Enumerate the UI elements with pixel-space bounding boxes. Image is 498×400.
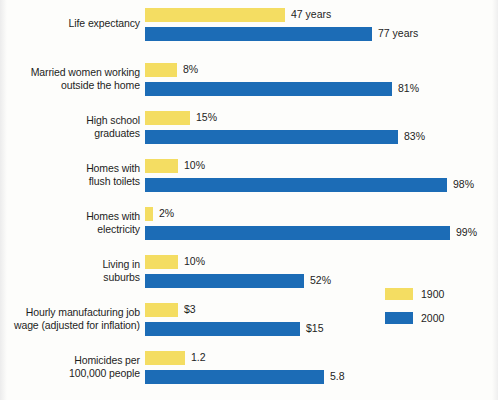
category-label-line1: Homes with [0, 162, 140, 175]
bar-1900 [145, 255, 178, 269]
bar-value-2000: 5.8 [330, 369, 345, 384]
category-label-line2: flush toilets [0, 175, 140, 188]
bar-1900 [145, 111, 190, 125]
category-label-line1: Life expectancy [69, 17, 140, 29]
category-label: Life expectancy [0, 17, 140, 30]
category-label-line2: 100,000 people [0, 367, 140, 380]
bar-value-2000: 77 years [378, 26, 418, 41]
bar-value-1900: 10% [184, 254, 205, 269]
bar-value-1900: 47 years [291, 7, 331, 22]
bar-value-1900: 10% [184, 158, 205, 173]
bar-1900 [145, 303, 178, 317]
category-label-line1: Living in [0, 258, 140, 271]
category-label: Homes with electricity [0, 210, 140, 236]
bar-2000 [145, 274, 304, 288]
category-label-line1: Married women working [0, 66, 140, 79]
bar-2000 [145, 27, 372, 41]
bar-value-2000: 83% [404, 129, 425, 144]
legend-swatch-2000 [385, 312, 413, 324]
bar-2000 [145, 82, 392, 96]
bar-value-1900: $3 [184, 302, 196, 317]
bar-1900 [145, 351, 185, 365]
category-label-line1: Homicides per [0, 354, 140, 367]
bar-chart: Life expectancy 47 years 77 years Marrie… [0, 0, 498, 400]
category-label-line2: suburbs [0, 271, 140, 284]
category-label-line2: wage (adjusted for inflation) [0, 319, 140, 332]
bar-value-1900: 2% [159, 206, 174, 221]
category-label: Homicides per 100,000 people [0, 354, 140, 380]
category-label: Hourly manufacturing job wage (adjusted … [0, 306, 140, 332]
legend-swatch-1900 [385, 288, 413, 300]
bar-2000 [145, 322, 300, 336]
category-label: High school graduates [0, 114, 140, 140]
bar-value-1900: 8% [183, 62, 198, 77]
category-label: Living in suburbs [0, 258, 140, 284]
category-label-line2: graduates [0, 127, 140, 140]
bar-1900 [145, 207, 153, 221]
bar-value-1900: 15% [196, 110, 217, 125]
category-label-line1: Hourly manufacturing job [0, 306, 140, 319]
category-label: Married women working outside the home [0, 66, 140, 92]
category-label-line1: High school [0, 114, 140, 127]
category-label-line2: outside the home [0, 79, 140, 92]
bar-1900 [145, 159, 178, 173]
bar-value-2000: 98% [453, 177, 474, 192]
category-label-line1: Homes with [0, 210, 140, 223]
bar-value-2000: 81% [398, 81, 419, 96]
category-label: Homes with flush toilets [0, 162, 140, 188]
bar-2000 [145, 130, 398, 144]
bar-2000 [145, 370, 324, 384]
category-label-line2: electricity [0, 223, 140, 236]
bar-value-2000: 52% [310, 273, 331, 288]
bar-2000 [145, 226, 450, 240]
bar-2000 [145, 178, 447, 192]
bar-1900 [145, 63, 177, 77]
bar-value-2000: 99% [456, 225, 477, 240]
bar-value-1900: 1.2 [191, 350, 206, 365]
legend-label-2000: 2000 [421, 310, 444, 326]
bar-1900 [145, 8, 285, 22]
legend-label-1900: 1900 [421, 286, 444, 302]
bar-value-2000: $15 [306, 321, 324, 336]
